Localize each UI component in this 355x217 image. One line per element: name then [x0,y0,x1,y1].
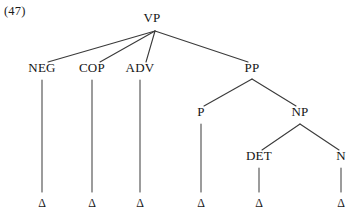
tree-node-det: DET [246,148,272,163]
syntax-tree-figure: (47) VPNEGCOPADVPPPNPDETN ΔΔΔΔΔΔ [0,0,355,217]
tree-node-n: N [336,148,346,163]
tree-terminal-cop: Δ [88,196,96,210]
tree-node-p: P [197,104,205,119]
tree-node-adv: ADV [125,60,154,75]
tree-node-group: VPNEGCOPADVPPPNPDETN [28,10,346,163]
tree-terminal-det: Δ [255,196,263,210]
tree-terminal-n: Δ [337,196,345,210]
tree-terminal-neg: Δ [38,196,46,210]
tree-edge-vp-to-cop [100,31,155,62]
tree-node-neg: NEG [28,60,56,75]
tree-diagram-canvas: VPNEGCOPADVPPPNPDETN ΔΔΔΔΔΔ [0,0,355,217]
tree-edge-vp-to-neg [48,31,155,62]
tree-terminal-group: ΔΔΔΔΔΔ [38,196,345,210]
tree-edge-np-to-n [300,124,339,150]
tree-node-np: NP [291,104,308,119]
tree-node-pp: PP [244,60,259,75]
tree-terminal-adv: Δ [136,196,144,210]
tree-node-vp: VP [143,10,160,25]
tree-edge-pp-to-p [204,79,252,106]
tree-edge-vp-to-pp [155,31,248,62]
tree-terminal-p: Δ [197,196,205,210]
tree-edge-np-to-det [262,124,300,150]
tree-node-cop: COP [79,60,105,75]
tree-edge-pp-to-np [252,79,296,106]
